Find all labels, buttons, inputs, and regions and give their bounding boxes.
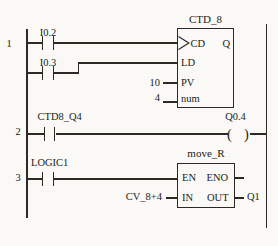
contact-ctd8q4-label: CTD8_Q4	[38, 111, 82, 122]
num-pin-wire	[163, 101, 177, 102]
out-value: Q1	[247, 191, 260, 202]
move-pin-in: IN	[182, 192, 193, 203]
wire-riser	[78, 62, 79, 73]
counter-pin-num: num	[181, 93, 200, 104]
num-value: 4	[136, 92, 160, 103]
pv-value: 10	[136, 77, 160, 88]
coil-q04-label: Q0.4	[221, 111, 250, 122]
wire	[27, 178, 43, 179]
counter-block-title: CTD_8	[177, 14, 234, 25]
in-value: CV_8+4	[120, 191, 162, 202]
wire	[250, 133, 266, 134]
left-power-rail	[26, 29, 27, 218]
wire	[54, 178, 178, 179]
out-pin-stub	[235, 197, 244, 198]
eno-pin-stub	[235, 177, 244, 178]
counter-pin-ld: LD	[181, 57, 195, 68]
wire	[27, 42, 43, 43]
wire	[54, 42, 178, 43]
pv-pin-wire	[163, 82, 178, 83]
wire	[27, 72, 43, 73]
edge-trigger-chevron-icon	[178, 36, 190, 54]
contact-i03-bar-left	[42, 66, 43, 81]
coil-close-paren: )	[244, 127, 249, 142]
coil-open-paren: (	[227, 127, 232, 142]
rung-3-number: 3	[13, 172, 23, 183]
right-power-rail	[266, 24, 267, 228]
wire	[27, 133, 44, 134]
counter-pin-cd: CD	[191, 38, 206, 49]
contact-i03-label: I0.3	[36, 57, 60, 68]
ladder-diagram: 1 I0.2 I0.3 CTD_8 CD Q LD PV num 10 4 2 …	[0, 0, 278, 246]
rung-2-number: 2	[13, 126, 23, 137]
move-pin-eno: ENO	[207, 172, 229, 183]
rung-1-number: 1	[4, 38, 14, 49]
counter-pin-q: Q	[223, 38, 231, 49]
contact-i02-bar-left	[42, 36, 43, 51]
contact-logic1-bar-left	[42, 172, 43, 187]
contact-i02-label: I0.2	[36, 27, 60, 38]
wire	[54, 72, 79, 73]
wire	[56, 133, 228, 134]
wire	[78, 62, 177, 63]
move-pin-out: OUT	[207, 192, 229, 203]
counter-pin-pv: PV	[181, 77, 194, 88]
contact-logic1-label: LOGIC1	[31, 157, 68, 168]
in-pin-wire	[166, 197, 177, 198]
move-pin-en: EN	[182, 172, 196, 183]
contact-ctd8q4-bar-left	[44, 127, 45, 142]
move-block-title: move_R	[177, 148, 235, 159]
